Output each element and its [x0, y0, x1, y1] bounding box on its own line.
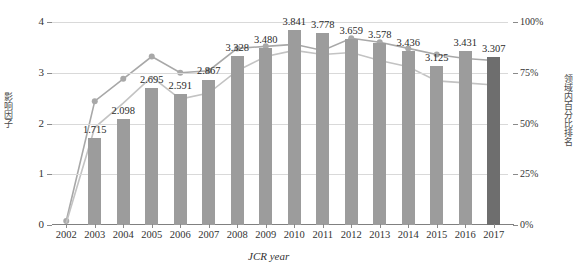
y-axis-left-tick-label: 4 — [20, 16, 44, 27]
x-axis-tick-mark — [437, 224, 438, 228]
y-axis-right-tick-label: 75% — [520, 68, 554, 78]
bar-2015 — [430, 66, 443, 225]
x-axis-title-year: year — [267, 250, 289, 262]
bar-2014 — [402, 51, 415, 225]
x-axis-tick-mark — [465, 224, 466, 228]
x-axis-tick-mark — [66, 224, 67, 228]
y-axis-right-tick-mark — [513, 225, 518, 226]
y-axis-right-tick-mark — [513, 124, 518, 125]
chart-container: 影响因子 领域内百分比排名 JCR year 012340%25%50%75%1… — [0, 0, 580, 268]
y-axis-right-tick-label: 50% — [520, 119, 554, 129]
bar-2011 — [316, 33, 329, 225]
y-axis-left-tick-mark — [47, 124, 52, 125]
bar-2003 — [88, 138, 101, 225]
bar-2012 — [345, 39, 358, 225]
y-axis-right-tick-mark — [513, 174, 518, 175]
x-axis-tick-mark — [152, 224, 153, 228]
y-axis-right-title: 领域内百分比排名 — [563, 74, 572, 146]
y-axis-left-tick-label: 3 — [20, 67, 44, 78]
bar-2005 — [145, 88, 158, 225]
bar-2008 — [231, 56, 244, 225]
line-marker — [149, 54, 155, 60]
y-axis-left-tick-mark — [47, 225, 52, 226]
x-axis-title: JCR year — [248, 250, 289, 262]
x-axis-tick-mark — [180, 224, 181, 228]
x-axis-tick-mark — [266, 224, 267, 228]
y-axis-left-tick-label: 1 — [20, 168, 44, 179]
x-axis-tick-mark — [294, 224, 295, 228]
x-axis-title-jcr: JCR — [248, 250, 267, 262]
y-axis-left-tick-label: 0 — [20, 219, 44, 230]
y-axis-right-tick-label: 0% — [520, 220, 554, 230]
y-axis-right-tick-mark — [513, 22, 518, 23]
bar-2016 — [459, 51, 472, 225]
x-axis-tick-mark — [323, 224, 324, 228]
x-axis-tick-label: 2017 — [474, 229, 514, 240]
bar-2013 — [373, 43, 386, 225]
y-axis-left-tick-label: 2 — [20, 118, 44, 129]
bar-2010 — [288, 30, 301, 225]
x-axis-tick-mark — [494, 224, 495, 228]
bar-2004 — [117, 119, 130, 225]
bar-value-label: 1.715 — [72, 124, 118, 135]
x-axis-tick-mark — [380, 224, 381, 228]
x-axis-tick-mark — [123, 224, 124, 228]
y-axis-right-tick-label: 25% — [520, 169, 554, 179]
bar-value-label: 2.098 — [100, 105, 146, 116]
bar-2007 — [202, 80, 215, 226]
bar-value-label: 3.436 — [385, 37, 431, 48]
x-axis-tick-mark — [351, 224, 352, 228]
line-marker — [120, 76, 126, 82]
bar-value-label: 2.591 — [157, 80, 203, 91]
x-axis-tick-mark — [95, 224, 96, 228]
bar-2009 — [259, 48, 272, 225]
y-axis-left-tick-mark — [47, 22, 52, 23]
bar-2006 — [174, 94, 187, 225]
y-axis-left-tick-mark — [47, 73, 52, 74]
x-axis-tick-mark — [237, 224, 238, 228]
y-axis-right-tick-label: 100% — [520, 17, 554, 27]
bar-2017 — [487, 57, 500, 225]
x-axis-tick-mark — [408, 224, 409, 228]
y-axis-left-title: 影响因子 — [3, 92, 12, 128]
x-axis-tick-mark — [209, 224, 210, 228]
line-marker — [92, 98, 98, 104]
y-axis-left-tick-mark — [47, 174, 52, 175]
bar-value-label: 2.867 — [186, 65, 232, 76]
bar-value-label: 3.480 — [243, 34, 289, 45]
y-axis-right-tick-mark — [513, 73, 518, 74]
bar-value-label: 3.307 — [471, 43, 517, 54]
bar-value-label: 3.125 — [414, 52, 460, 63]
